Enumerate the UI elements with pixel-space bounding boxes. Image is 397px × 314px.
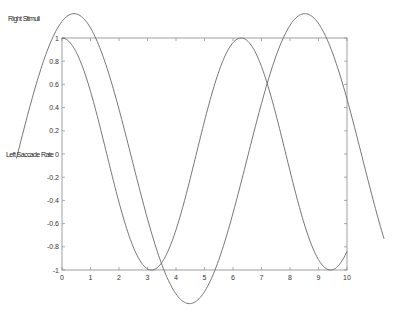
y-axis-ticks: 10.80.60.40.20-0.2-0.4-0.6-0.8-1: [47, 35, 347, 274]
y-tick-label: -0.8: [47, 243, 59, 250]
overlay-label-middle: Left Saccade Rate: [6, 151, 54, 158]
axes-box: [62, 38, 347, 270]
x-axis-ticks: 012345678910: [60, 38, 351, 281]
x-tick-label: 1: [89, 274, 93, 281]
cos-curve: [62, 38, 347, 270]
x-tick-label: 8: [288, 274, 292, 281]
y-tick-label: 0.2: [49, 127, 59, 134]
y-tick-label: -0.2: [47, 174, 59, 181]
y-tick-label: 0.6: [49, 81, 59, 88]
x-tick-label: 4: [174, 274, 178, 281]
line-chart: 012345678910 10.80.60.40.20-0.2-0.4-0.6-…: [0, 0, 397, 314]
y-tick-label: -0.6: [47, 220, 59, 227]
x-tick-label: 2: [117, 274, 121, 281]
x-tick-label: 0: [60, 274, 64, 281]
sine-curve: [16, 14, 384, 304]
x-tick-label: 6: [231, 274, 235, 281]
y-tick-label: 1: [55, 35, 59, 42]
y-tick-label: -1: [53, 267, 59, 274]
y-tick-label: 0: [55, 151, 59, 158]
overlay-label-top: Right Stimuli: [8, 15, 41, 23]
x-tick-label: 3: [146, 274, 150, 281]
y-tick-label: -0.4: [47, 197, 59, 204]
y-tick-label: 0.8: [49, 58, 59, 65]
x-tick-label: 9: [317, 274, 321, 281]
y-tick-label: 0.4: [49, 104, 59, 111]
x-tick-label: 10: [343, 274, 351, 281]
x-tick-label: 5: [203, 274, 207, 281]
x-tick-label: 7: [260, 274, 264, 281]
